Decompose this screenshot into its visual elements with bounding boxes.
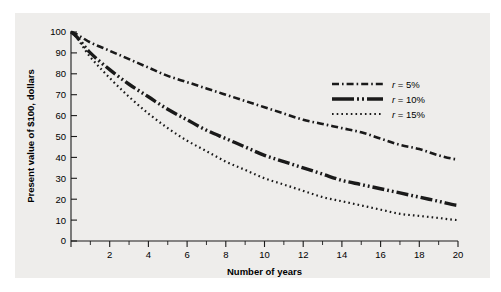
x-tick-label: 6 — [184, 249, 189, 260]
present-value-line-chart: 0 10 20 30 40 50 60 70 80 90 100 — [0, 0, 501, 292]
x-tick-label: 10 — [259, 249, 270, 260]
y-tick-label: 0 — [61, 235, 66, 246]
y-tick-label: 50 — [55, 131, 66, 142]
y-axis-tick-labels: 0 10 20 30 40 50 60 70 80 90 100 — [50, 26, 66, 246]
x-tick-label: 20 — [453, 249, 464, 260]
y-tick-label: 40 — [55, 152, 66, 163]
legend-label-r-15: r = 15% — [392, 109, 426, 120]
y-tick-label: 90 — [55, 47, 66, 58]
x-axis-tick-labels: 2 4 6 8 10 12 14 16 18 20 — [107, 249, 463, 260]
y-tick-label: 60 — [55, 110, 66, 121]
y-axis-title: Present value of $100, dollars — [25, 69, 36, 203]
y-tick-label: 80 — [55, 68, 66, 79]
x-tick-label: 12 — [298, 249, 309, 260]
axes — [71, 31, 458, 241]
x-tick-label: 2 — [107, 249, 112, 260]
x-tick-label: 16 — [375, 249, 386, 260]
x-tick-label: 8 — [223, 249, 228, 260]
legend-label-r-10: r = 10% — [392, 94, 426, 105]
y-tick-label: 100 — [50, 26, 66, 37]
y-tick-label: 30 — [55, 173, 66, 184]
x-tick-label: 18 — [414, 249, 425, 260]
data-curves — [71, 32, 458, 220]
x-axis-title: Number of years — [227, 266, 302, 277]
y-tick-label: 20 — [55, 194, 66, 205]
y-tick-label: 10 — [55, 215, 66, 226]
figure-container: 0 10 20 30 40 50 60 70 80 90 100 — [0, 0, 501, 292]
y-tick-label: 70 — [55, 89, 66, 100]
legend-label-r-5: r = 5% — [392, 79, 420, 90]
x-tick-label: 4 — [146, 249, 151, 260]
y-axis-ticks — [71, 32, 77, 241]
legend: r = 5% r = 10% r = 15% — [332, 79, 426, 120]
x-tick-label: 14 — [337, 249, 348, 260]
